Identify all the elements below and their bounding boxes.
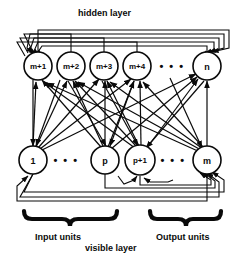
node-m-plus-1-label: m+1 [30, 62, 47, 71]
node-p-label: p [102, 156, 108, 166]
hidden-layer-title: hidden layer [78, 8, 131, 18]
input-units-brace [24, 211, 117, 226]
hidden-layer-ellipsis: • • • [159, 60, 184, 72]
visible-layer-title: visible layer [85, 243, 137, 253]
output-units-brace [150, 211, 221, 226]
output-units-label: Output units [156, 232, 210, 242]
node-m-plus-3-label: m+3 [96, 62, 113, 71]
interlayer-connections [33, 74, 207, 152]
node-n-label: n [204, 62, 210, 72]
node-1-label: 1 [30, 156, 35, 166]
visible-recurrent-loops [17, 172, 224, 201]
visible-layer-ellipsis-input: • • • [53, 154, 78, 166]
neural-network-diagram: m+1 m+2 m+3 m+4 • • • n 1 • • • p p+1 • … [0, 0, 238, 258]
visible-layer-nodes: 1 • • • p p+1 • • • m [19, 145, 221, 175]
input-units-label: Input units [35, 232, 81, 242]
node-p-plus-1-label: p+1 [133, 156, 148, 165]
node-m-plus-4-label: m+4 [129, 62, 146, 71]
diagram-canvas: m+1 m+2 m+3 m+4 • • • n 1 • • • p p+1 • … [0, 0, 238, 258]
node-m-plus-2-label: m+2 [63, 62, 80, 71]
group-braces [24, 211, 221, 226]
hidden-recurrent-loops [17, 30, 229, 56]
visible-layer-ellipsis-output: • • • [160, 154, 185, 166]
node-m-label: m [203, 156, 211, 166]
